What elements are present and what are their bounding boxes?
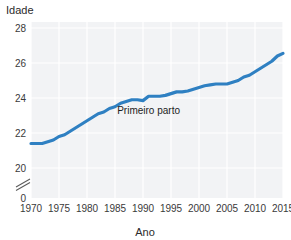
x-tick-label: 1980 bbox=[76, 203, 99, 214]
y-tick-label: 28 bbox=[15, 23, 27, 34]
x-tick-label: 1970 bbox=[20, 203, 43, 214]
x-tick-label: 1985 bbox=[104, 203, 127, 214]
y-tick-label: 26 bbox=[15, 58, 27, 69]
x-tick-label: 2000 bbox=[188, 203, 211, 214]
x-axis-tick-labels: 1970197519801985199019952000200520102015 bbox=[20, 203, 291, 214]
y-tick-label: 24 bbox=[15, 93, 27, 104]
y-tick-label: 22 bbox=[15, 128, 27, 139]
x-tick-label: 1990 bbox=[132, 203, 155, 214]
chart-container: Idade Ano Primeiro parto 02022242628 197… bbox=[0, 0, 291, 240]
x-tick-label: 2015 bbox=[272, 203, 291, 214]
annotation-primeiro-parto: Primeiro parto bbox=[117, 105, 180, 116]
line-chart: Idade Ano Primeiro parto 02022242628 197… bbox=[0, 0, 291, 240]
x-tick-label: 1995 bbox=[160, 203, 183, 214]
y-axis-break-icon bbox=[16, 179, 30, 191]
y-tick-label: 20 bbox=[15, 163, 27, 174]
x-axis-title: Ano bbox=[135, 226, 155, 238]
y-axis-title: Idade bbox=[6, 4, 34, 16]
x-tick-label: 2010 bbox=[244, 203, 267, 214]
y-axis-tick-labels: 02022242628 bbox=[15, 23, 27, 205]
x-tick-label: 1975 bbox=[48, 203, 71, 214]
x-tick-label: 2005 bbox=[216, 203, 239, 214]
